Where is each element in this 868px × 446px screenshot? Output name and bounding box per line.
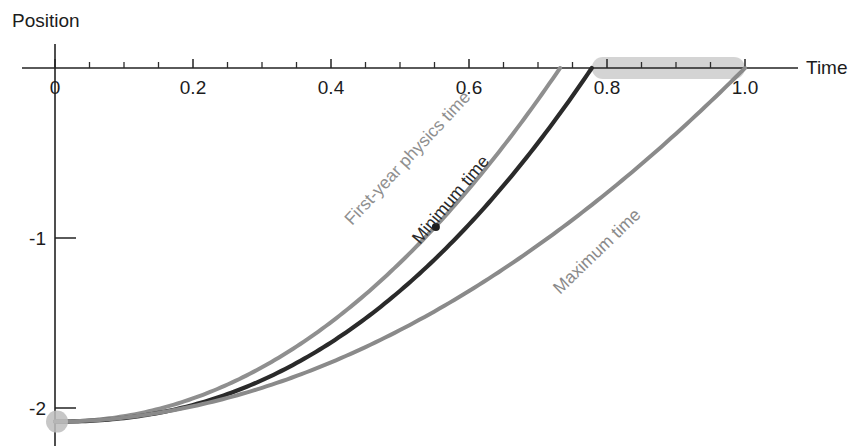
curve-label-maximum-time: Maximum time — [549, 204, 645, 297]
y-axis-title: Position — [12, 10, 80, 31]
x-axis-title: Time — [806, 57, 848, 78]
x-tick-label: 1.0 — [732, 77, 758, 98]
curve-label-group: First-year physics timeMinimum timeMaxim… — [340, 87, 644, 298]
marker-group — [46, 223, 440, 433]
curve-first-year-physics-time — [55, 68, 560, 422]
y-tick-label: -2 — [29, 398, 46, 419]
x-tick-label: 0 — [50, 77, 61, 98]
x-tick-label: 0.6 — [456, 77, 482, 98]
x-tick-label: 0.2 — [180, 77, 206, 98]
curve-label-minimum-time: Minimum time — [408, 151, 493, 247]
y-axis-ticks — [40, 238, 76, 408]
y-tick-label: -1 — [29, 228, 46, 249]
tick-label-group: 00.20.40.60.81.0-1-2 — [29, 77, 758, 419]
position-vs-time-chart: Position Time First-year physics timeMin… — [0, 0, 868, 446]
curve-minimum-time — [55, 68, 592, 422]
curve-maximum-time — [55, 68, 745, 422]
x-tick-label: 0.8 — [594, 77, 620, 98]
start-point-marker — [46, 411, 68, 433]
curve-group — [55, 68, 745, 422]
x-tick-label: 0.4 — [318, 77, 345, 98]
